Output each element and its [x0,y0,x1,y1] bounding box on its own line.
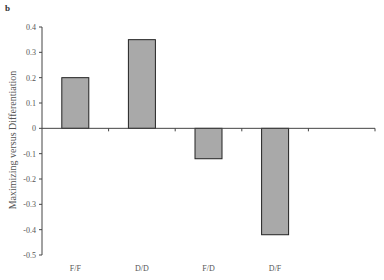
y-tick-label: 0.1 [26,99,36,108]
y-tick-label: -0.1 [23,150,36,159]
y-tick-label: 0.4 [26,23,36,32]
bar-d-d [128,40,155,129]
x-category-label: D/F [269,264,282,273]
y-tick-label: -0.4 [23,226,36,235]
bar-f-d [195,128,222,158]
y-tick-label: 0 [32,124,36,133]
bars [62,40,289,235]
x-category-label: D/D [135,264,149,273]
x-category-label: F/F [70,264,82,273]
y-tick-label: -0.3 [23,200,36,209]
y-tick-label: 0.3 [26,48,36,57]
bar-chart: 0.40.30.20.10-0.1-0.2-0.3-0.4-0.5 F/FD/D… [0,0,384,280]
bar-d-f [262,128,289,234]
y-tick-label: -0.2 [23,175,36,184]
y-tick-label: 0.2 [26,74,36,83]
bar-f-f [62,78,89,129]
y-tick-label: -0.5 [23,251,36,260]
x-category-label: F/D [202,264,215,273]
y-axis: 0.40.30.20.10-0.1-0.2-0.3-0.4-0.5 [23,23,42,260]
x-axis-category-labels: F/FD/DF/DD/F [70,264,282,273]
